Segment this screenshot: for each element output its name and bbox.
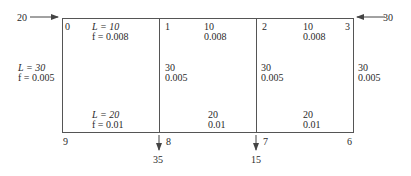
outflow-8-value: 35 (153, 154, 163, 165)
pipe-1-2-f: 0.008 (204, 31, 227, 42)
inflow-right-value: 30 (383, 12, 393, 23)
node-3-label: 3 (345, 21, 350, 32)
node-6-label: 6 (347, 136, 352, 147)
pipe-3-6-f: 0.005 (358, 72, 381, 83)
pipe-7-6-f: 0.01 (303, 119, 321, 130)
outflow-7-value: 15 (251, 154, 261, 165)
node-7-label: 7 (263, 136, 268, 147)
node-2-label: 2 (262, 21, 267, 32)
inflow-left-value: 20 (17, 12, 27, 23)
pipe-0-9-f: f = 0.005 (18, 72, 54, 83)
node-1-label: 1 (165, 21, 170, 32)
pipe-1-8-f: 0.005 (165, 72, 188, 83)
pipe-0-1-f: f = 0.008 (92, 31, 128, 42)
node-9-label: 9 (63, 136, 68, 147)
pipe-8-7-f: 0.01 (208, 119, 226, 130)
pipe-9-8-f: f = 0.01 (92, 119, 123, 130)
pipe-2-7-f: 0.005 (261, 72, 284, 83)
node-8-label: 8 (166, 136, 171, 147)
node-0-label: 0 (65, 21, 70, 32)
pipe-2-3-f: 0.008 (303, 31, 326, 42)
